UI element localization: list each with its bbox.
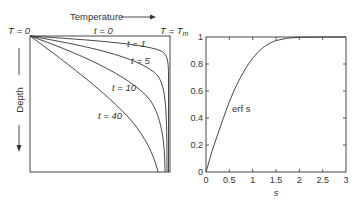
- svg-text:1: 1: [198, 32, 203, 42]
- erf-panel: 1 0.8 0.6 0.4 0.2 0 0 0.5 1 1.5 2 2.5 3 …: [190, 32, 348, 198]
- label-t1: t = 1: [127, 38, 146, 49]
- svg-text:0.5: 0.5: [223, 175, 236, 185]
- figure: Temperature T = 0 t = 0 T = Tm Depth t =…: [0, 0, 363, 207]
- x-tick-labels: 0 0.5 1 1.5 2 2.5 3: [203, 175, 348, 185]
- svg-text:0.2: 0.2: [190, 140, 203, 150]
- y-tick-labels: 1 0.8 0.6 0.4 0.2 0: [190, 32, 203, 177]
- temperature-axis-label: Temperature: [70, 11, 123, 22]
- svg-text:3: 3: [343, 175, 348, 185]
- svg-text:0: 0: [198, 167, 203, 177]
- label-Tm: T = Tm: [160, 25, 188, 37]
- label-t5: t = 5: [131, 55, 150, 66]
- label-erf: erf s: [232, 103, 251, 114]
- label-T0: T = 0: [8, 25, 31, 36]
- right-plot-frame: [206, 37, 346, 172]
- svg-text:0.8: 0.8: [190, 59, 203, 69]
- x-axis-label: s: [274, 187, 279, 198]
- svg-text:2.5: 2.5: [316, 175, 329, 185]
- curve-erf: [206, 37, 346, 172]
- y-ticks: [206, 37, 346, 172]
- temperature-depth-panel: Temperature T = 0 t = 0 T = Tm Depth t =…: [8, 11, 188, 172]
- label-t10: t = 10: [112, 82, 137, 93]
- svg-text:1.5: 1.5: [270, 175, 283, 185]
- depth-axis-label: Depth: [14, 87, 25, 112]
- svg-text:0.4: 0.4: [190, 113, 203, 123]
- temperature-arrow-icon: [150, 15, 156, 20]
- label-t0: t = 0: [94, 25, 113, 36]
- svg-text:1: 1: [250, 175, 255, 185]
- depth-arrow-icon: [17, 145, 22, 152]
- svg-text:2: 2: [297, 175, 302, 185]
- label-t40: t = 40: [98, 110, 123, 121]
- svg-text:0: 0: [203, 175, 208, 185]
- svg-text:0.6: 0.6: [190, 86, 203, 96]
